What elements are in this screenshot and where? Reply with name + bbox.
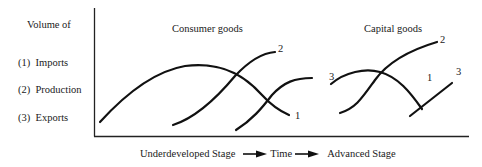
- consumer-production-curve: [173, 52, 275, 125]
- capital-exports-label: 3: [456, 67, 461, 78]
- consumer-exports-label: 3: [329, 72, 334, 83]
- consumer-imports-label: 1: [295, 111, 300, 122]
- consumer-production-label: 2: [278, 44, 283, 55]
- x-axis-caption: Underdeveloped Stage Time Advanced Stage: [140, 149, 396, 160]
- arrow-right-icon: [295, 150, 319, 158]
- x-axis-start-label: Underdeveloped Stage: [140, 149, 235, 160]
- plot-area: [0, 0, 482, 167]
- capital-imports-label: 1: [427, 73, 432, 84]
- trade-development-diagram: Volume of (1) Imports (2) Production (3)…: [0, 0, 482, 167]
- capital-production-curve: [340, 42, 437, 113]
- arrow-right-icon: [243, 150, 267, 158]
- consumer-exports-curve: [236, 78, 312, 130]
- x-axis-end-label: Advanced Stage: [327, 149, 396, 160]
- capital-production-label: 2: [440, 35, 445, 46]
- x-axis-middle-label: Time: [270, 149, 292, 160]
